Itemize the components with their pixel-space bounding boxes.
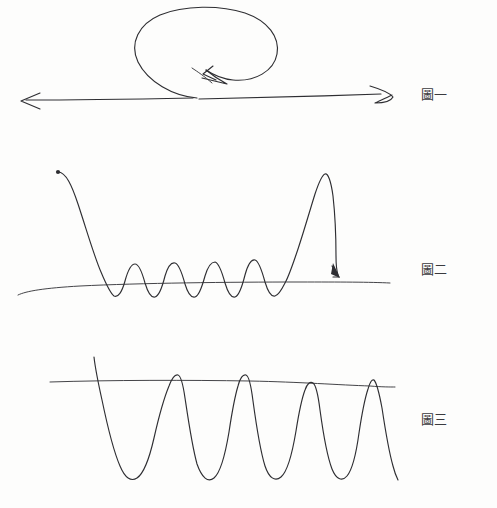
fig1-loop-path — [135, 7, 278, 98]
figure-1-label: 圖一 — [421, 88, 447, 101]
fig1-loop-cross-stroke — [192, 68, 212, 83]
sketch-canvas: 圖一 圖二 圖三 — [0, 0, 497, 508]
figure-3-group — [50, 357, 398, 480]
arrowhead-left-icon — [21, 93, 40, 109]
fig2-baseline-path — [18, 282, 390, 295]
fig2-curve-path — [58, 172, 338, 297]
figure-1-group — [21, 7, 393, 109]
figure-2-group — [18, 170, 390, 297]
drawing-surface — [0, 0, 497, 508]
fig3-baseline-path — [50, 380, 395, 387]
fig1-axis-left-path — [26, 98, 193, 100]
figure-2-label: 圖二 — [421, 263, 447, 276]
fig1-axis-right-path — [199, 94, 381, 99]
figure-3-label: 圖三 — [421, 413, 447, 426]
fig3-curve-path — [94, 357, 398, 480]
fig2-arrowhead-end-fill — [331, 263, 340, 278]
